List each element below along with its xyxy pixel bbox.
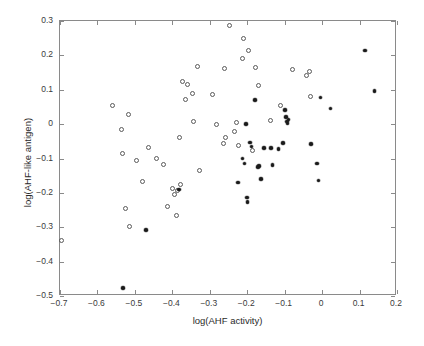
data-point (119, 127, 124, 132)
plot-area (59, 20, 396, 295)
data-point (319, 96, 323, 100)
x-tick-mark (360, 21, 361, 25)
data-point (234, 120, 239, 125)
x-tick-label: −0.3 (200, 298, 217, 308)
data-point (281, 141, 285, 145)
data-point (253, 98, 257, 102)
data-point (222, 66, 227, 71)
data-point (257, 164, 261, 168)
data-point (232, 129, 237, 134)
data-point (290, 67, 295, 72)
y-tick-mark (60, 90, 64, 91)
x-tick-mark (210, 21, 211, 25)
data-point (309, 142, 313, 146)
data-point (120, 151, 125, 156)
data-point (286, 122, 290, 126)
y-tick-mark (391, 124, 395, 125)
data-point (221, 141, 226, 146)
data-point (308, 94, 313, 99)
y-axis-label: log(AHF-like antigen) (22, 83, 33, 243)
data-point (195, 64, 200, 69)
y-tick-mark (60, 21, 64, 22)
x-tick-label: −0.6 (88, 298, 105, 308)
x-tick-mark (322, 290, 323, 294)
data-point (165, 204, 170, 209)
data-points-layer (60, 21, 395, 294)
data-point (172, 192, 177, 197)
data-point (241, 36, 246, 41)
data-point (134, 158, 139, 163)
data-point (241, 157, 245, 161)
data-point (223, 135, 228, 140)
data-point (248, 141, 252, 145)
data-point (214, 122, 219, 127)
x-tick-mark (210, 290, 211, 294)
y-tick-mark (391, 193, 395, 194)
data-point (243, 162, 247, 166)
x-tick-label: 0.1 (353, 298, 365, 308)
y-tick-mark (60, 159, 64, 160)
data-point (363, 49, 367, 53)
x-axis-label: log(AHF activity) (59, 315, 396, 326)
data-point (185, 82, 190, 87)
data-point (146, 145, 151, 150)
data-point (253, 65, 258, 70)
data-point (271, 163, 275, 167)
x-tick-mark (135, 290, 136, 294)
data-point (174, 213, 179, 218)
y-tick-mark (391, 55, 395, 56)
y-tick-mark (391, 159, 395, 160)
y-tick-label: −0.4 (0, 256, 53, 266)
scatter-plot-figure: −0.7−0.6−0.5−0.4−0.3−0.2−0.100.10.2 0.30… (0, 0, 424, 346)
x-tick-label: −0.1 (275, 298, 292, 308)
data-point (140, 179, 145, 184)
data-point (127, 224, 132, 229)
x-tick-label: −0.4 (163, 298, 180, 308)
data-point (307, 69, 312, 74)
x-tick-mark (172, 21, 173, 25)
data-point (246, 48, 251, 53)
data-point (287, 118, 291, 122)
data-point (304, 73, 309, 78)
data-point (277, 147, 281, 151)
y-tick-mark (60, 193, 64, 194)
data-point (110, 103, 115, 108)
x-tick-mark (285, 21, 286, 25)
y-tick-mark (391, 262, 395, 263)
data-point (178, 182, 183, 187)
x-tick-label: −0.5 (125, 298, 142, 308)
y-tick-mark (391, 227, 395, 228)
data-point (317, 179, 321, 183)
data-point (236, 181, 240, 185)
y-tick-mark (60, 227, 64, 228)
data-point (123, 206, 128, 211)
data-point (190, 91, 195, 96)
x-tick-mark (97, 21, 98, 25)
y-tick-label: 0.2 (0, 49, 53, 59)
data-point (262, 146, 266, 150)
y-tick-mark (60, 55, 64, 56)
data-point (144, 228, 148, 232)
y-tick-mark (60, 262, 64, 263)
data-point (256, 83, 261, 88)
x-tick-mark (135, 21, 136, 25)
data-point (191, 119, 196, 124)
data-point (244, 122, 248, 126)
x-tick-mark (247, 21, 248, 25)
data-point (210, 92, 215, 97)
y-tick-mark (60, 296, 64, 297)
data-point (278, 103, 283, 108)
data-point (126, 112, 131, 117)
y-tick-mark (60, 124, 64, 125)
data-point (250, 148, 255, 153)
data-point (268, 118, 273, 123)
x-tick-label: 0.2 (390, 298, 402, 308)
data-point (177, 135, 182, 140)
data-point (177, 188, 181, 192)
x-tick-mark (247, 290, 248, 294)
data-point (315, 162, 319, 166)
y-tick-mark (391, 296, 395, 297)
x-tick-label: −0.2 (238, 298, 255, 308)
x-tick-mark (285, 290, 286, 294)
x-tick-mark (322, 21, 323, 25)
